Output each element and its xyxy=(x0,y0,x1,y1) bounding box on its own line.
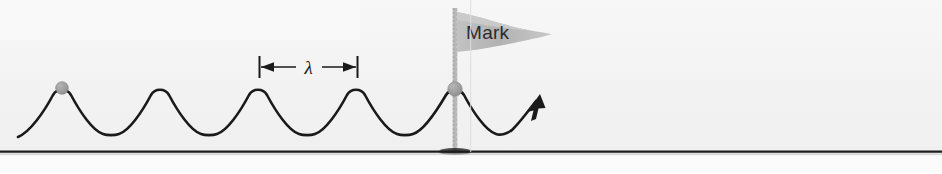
wave-diagram-canvas: λ Mark xyxy=(0,0,942,173)
bottom-margin xyxy=(0,156,942,174)
mark-flag-label: Mark xyxy=(466,22,510,43)
wavelength-symbol-label: λ xyxy=(303,57,312,78)
crest-dot-at-mark xyxy=(448,82,462,96)
background-highlight xyxy=(0,0,360,40)
wave-figure: λ Mark xyxy=(0,0,942,173)
scan-seam xyxy=(470,0,471,152)
crest-dot-left xyxy=(56,82,69,95)
